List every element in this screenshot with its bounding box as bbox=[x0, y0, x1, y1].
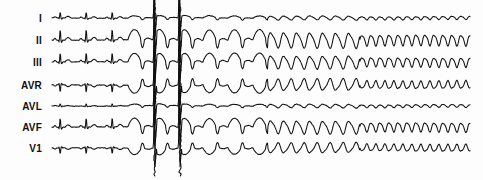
ecg-trace-iii bbox=[52, 2, 470, 80]
ecg-trace-avr bbox=[52, 25, 470, 103]
ecg-waveform-canvas bbox=[0, 0, 483, 180]
ecg-trace-ii bbox=[52, 0, 470, 59]
ecg-trace-i bbox=[52, 0, 470, 37]
ecg-figure: IIIIIIAVRAVLAVFV1 bbox=[0, 0, 483, 180]
